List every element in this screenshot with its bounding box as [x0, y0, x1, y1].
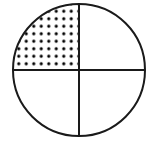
figure-canvas — [0, 0, 157, 142]
circle-quadrant-diagram — [0, 0, 157, 142]
